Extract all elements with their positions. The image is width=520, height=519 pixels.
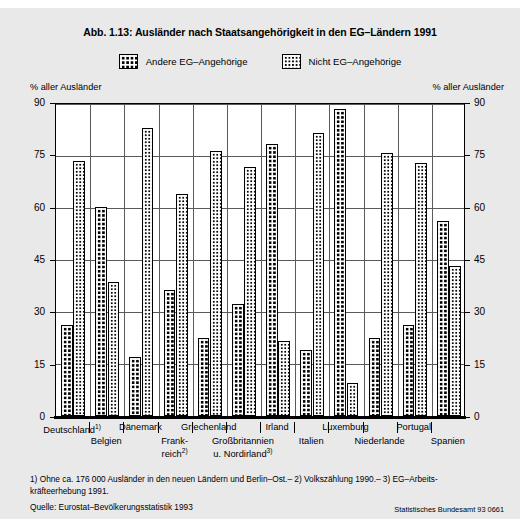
y-tick-label: 75 <box>474 149 508 160</box>
bar-andere-eg <box>437 221 449 416</box>
category-divider <box>226 422 227 433</box>
bar-andere-eg <box>129 357 141 416</box>
y-tick-label: 15 <box>11 359 45 370</box>
bar-nicht-eg <box>381 153 393 416</box>
bar-andere-eg <box>164 290 176 416</box>
legend-label-nicht-eg: Nicht EG–Angehörige <box>309 56 402 67</box>
fine-dot-swatch-icon <box>282 54 301 69</box>
group-separator <box>261 104 262 416</box>
y-tick-label: 90 <box>11 97 45 108</box>
y-tick <box>50 208 56 209</box>
axis-caption-right: % aller Ausländer <box>433 82 505 92</box>
bar-andere-eg <box>334 109 346 416</box>
source-note: Quelle: Eurostat–Bevölkerungsstatistik 1… <box>30 502 193 514</box>
bar-nicht-eg <box>449 266 461 416</box>
plot-area <box>55 103 465 417</box>
bar-nicht-eg <box>108 282 120 416</box>
legend-item-andere-eg: Andere EG–Angehörige <box>119 54 248 69</box>
y-tick-label: 15 <box>474 359 508 370</box>
group-separator <box>90 104 91 416</box>
category-divider <box>192 422 193 433</box>
category-divider <box>89 422 90 433</box>
agency-note: Statistisches Bundesamt 93 0661 <box>394 504 504 516</box>
group-separator <box>193 104 194 416</box>
category-divider <box>431 422 432 433</box>
bar-nicht-eg <box>73 161 85 416</box>
category-divider <box>123 422 124 433</box>
y-tick <box>50 365 56 366</box>
y-tick <box>50 312 56 313</box>
bar-nicht-eg <box>244 167 256 416</box>
bar-andere-eg <box>403 325 415 416</box>
bar-andere-eg <box>369 338 381 417</box>
bar-nicht-eg <box>142 128 154 416</box>
bar-andere-eg <box>61 325 73 416</box>
category-label: Portugal <box>368 422 460 432</box>
x-axis-line <box>54 416 466 419</box>
category-divider <box>158 422 159 433</box>
y-tick <box>50 155 56 156</box>
y-tick-label: 0 <box>11 411 45 422</box>
group-separator <box>295 104 296 416</box>
coarse-dot-swatch-icon <box>119 54 138 69</box>
y-tick-label: 60 <box>11 202 45 213</box>
y-tick-label: 30 <box>11 306 45 317</box>
y-tick <box>50 260 56 261</box>
bar-andere-eg <box>266 144 278 416</box>
group-separator <box>364 104 365 416</box>
y-tick <box>464 260 470 261</box>
category-divider <box>328 422 329 433</box>
group-separator <box>159 104 160 416</box>
category-divider <box>294 422 295 433</box>
figure-title: Abb. 1.13: Ausländer nach Staatsangehöri… <box>0 26 520 38</box>
y-tick <box>464 365 470 366</box>
bar-andere-eg <box>300 350 312 416</box>
bar-nicht-eg <box>313 133 325 416</box>
y-tick-label: 30 <box>474 306 508 317</box>
group-separator <box>124 104 125 416</box>
bar-nicht-eg <box>176 194 188 416</box>
y-tick <box>464 208 470 209</box>
y-tick <box>464 103 470 104</box>
y-tick <box>50 103 56 104</box>
chart-legend: Andere EG–Angehörige Nicht EG–Angehörige <box>0 54 520 69</box>
bar-nicht-eg <box>347 383 359 416</box>
y-tick <box>464 155 470 156</box>
legend-label-andere-eg: Andere EG–Angehörige <box>146 56 248 67</box>
category-divider <box>363 422 364 433</box>
y-tick-label: 45 <box>474 254 508 265</box>
bar-series-container <box>56 104 464 416</box>
y-tick-label: 75 <box>11 149 45 160</box>
group-separator <box>432 104 433 416</box>
footnotes: 1) Ohne ca. 176 000 Ausländer in den neu… <box>30 474 492 497</box>
bar-nicht-eg <box>210 151 222 416</box>
bar-andere-eg <box>198 338 210 417</box>
bar-nicht-eg <box>415 163 427 416</box>
group-separator <box>329 104 330 416</box>
y-tick <box>464 312 470 313</box>
bar-andere-eg <box>232 304 244 416</box>
category-divider <box>260 422 261 433</box>
y-tick-label: 90 <box>474 97 508 108</box>
legend-item-nicht-eg: Nicht EG–Angehörige <box>282 54 402 69</box>
category-divider <box>397 422 398 433</box>
y-tick <box>50 417 56 418</box>
y-tick-label: 45 <box>11 254 45 265</box>
group-separator <box>398 104 399 416</box>
y-tick <box>464 417 470 418</box>
category-label: Spanien <box>402 436 494 446</box>
bar-nicht-eg <box>278 341 290 416</box>
bar-andere-eg <box>95 207 107 416</box>
group-separator <box>227 104 228 416</box>
y-tick-label: 60 <box>474 202 508 213</box>
figure-panel: Abb. 1.13: Ausländer nach Staatsangehöri… <box>0 8 520 519</box>
axis-caption-left: % aller Ausländer <box>30 82 102 92</box>
y-tick-label: 0 <box>474 411 508 422</box>
